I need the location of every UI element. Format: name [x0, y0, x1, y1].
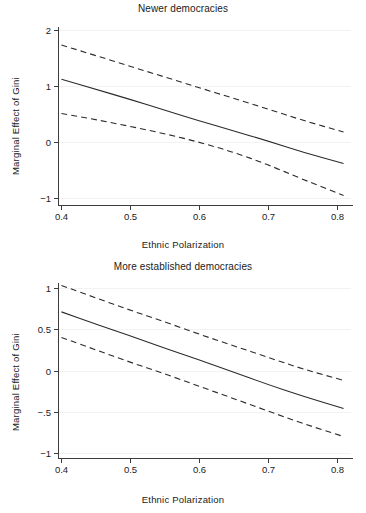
x-tick-label-0: 0.4 — [55, 211, 68, 222]
y-tick-label-0: 1 — [46, 283, 51, 294]
x-tick-label-2: 0.6 — [193, 211, 206, 222]
series-line-0 — [61, 285, 343, 380]
x-tick-label-1: 0.5 — [124, 464, 137, 475]
y-tick-label-1: 1 — [46, 81, 51, 92]
x-tick-label-2: 0.6 — [193, 464, 206, 475]
series-line-1 — [61, 312, 343, 409]
plot-area-top: 210−10.40.50.60.70.8 — [0, 0, 366, 256]
series-line-0 — [61, 45, 343, 132]
x-tick-label-4: 0.8 — [331, 464, 344, 475]
x-tick-label-3: 0.7 — [262, 464, 275, 475]
plot-area-bottom: 10.50−.5−10.40.50.60.70.8 — [0, 256, 366, 513]
marginal-effects-figure: Newer democracies Marginal Effect of Gin… — [0, 0, 366, 513]
y-tick-label-0: 2 — [46, 25, 51, 36]
y-tick-label-3: −.5 — [38, 407, 51, 418]
x-tick-label-3: 0.7 — [262, 211, 275, 222]
y-tick-label-4: −1 — [40, 448, 51, 459]
chart-panel-newer-democracies: Newer democracies Marginal Effect of Gin… — [0, 0, 366, 256]
y-tick-label-2: 0 — [46, 137, 51, 148]
x-tick-label-1: 0.5 — [124, 211, 137, 222]
x-tick-label-4: 0.8 — [331, 211, 344, 222]
y-tick-label-1: 0.5 — [38, 324, 51, 335]
y-tick-label-3: −1 — [40, 193, 51, 204]
x-tick-label-0: 0.4 — [55, 464, 68, 475]
y-tick-label-2: 0 — [46, 366, 51, 377]
chart-panel-more-established-democracies: More established democracies Marginal Ef… — [0, 256, 366, 513]
series-line-2 — [61, 337, 343, 436]
series-line-2 — [61, 113, 343, 195]
